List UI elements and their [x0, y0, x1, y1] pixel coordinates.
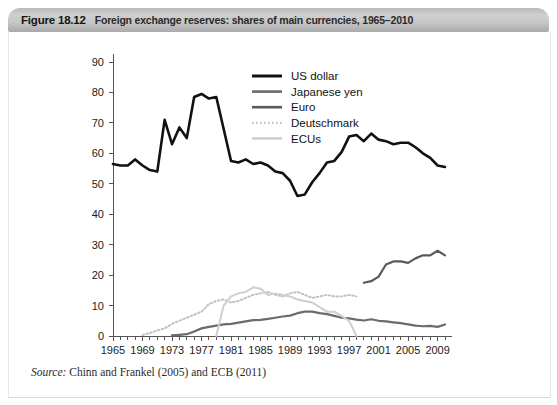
- svg-text:20: 20: [92, 269, 104, 281]
- chart-legend: US dollarJapanese yenEuroDeutschmarkECUs: [252, 70, 363, 144]
- svg-text:1977: 1977: [189, 344, 213, 356]
- svg-text:10: 10: [92, 300, 104, 312]
- svg-text:90: 90: [92, 56, 104, 68]
- svg-text:1965: 1965: [101, 344, 125, 356]
- figure-header-bar: Figure 18.12 Foreign exchange reserves: …: [8, 8, 549, 32]
- svg-text:0: 0: [98, 330, 104, 342]
- svg-text:1973: 1973: [160, 344, 184, 356]
- svg-text:60: 60: [92, 147, 104, 159]
- svg-text:1985: 1985: [248, 344, 272, 356]
- series-line-euro: [364, 251, 445, 283]
- svg-text:70: 70: [92, 117, 104, 129]
- y-axis-tick-labels: 0102030405060708090: [92, 56, 104, 342]
- legend-label-japanese-yen: Japanese yen: [291, 86, 363, 98]
- legend-label-deutschmark: Deutschmark: [291, 117, 359, 129]
- svg-text:1993: 1993: [307, 344, 331, 356]
- svg-text:40: 40: [92, 208, 104, 220]
- line-chart: 0102030405060708090 19651969197319771981…: [9, 32, 550, 357]
- chart-svg: 0102030405060708090 19651969197319771981…: [9, 32, 550, 357]
- svg-text:2005: 2005: [396, 344, 420, 356]
- legend-label-euro: Euro: [291, 101, 315, 113]
- svg-text:1989: 1989: [278, 344, 302, 356]
- svg-text:50: 50: [92, 178, 104, 190]
- legend-label-us-dollar: US dollar: [291, 70, 338, 82]
- svg-text:1981: 1981: [219, 344, 243, 356]
- chart-axes: [109, 54, 452, 341]
- source-note: Source: Chinn and Frankel (2005) and ECB…: [31, 366, 266, 378]
- figure-container: Figure 18.12 Foreign exchange reserves: …: [0, 0, 557, 405]
- source-text: Chinn and Frankel (2005) and ECB (2011): [69, 366, 266, 378]
- svg-text:2009: 2009: [425, 344, 449, 356]
- svg-text:80: 80: [92, 86, 104, 98]
- series-line-us-dollar: [113, 94, 445, 196]
- svg-text:2001: 2001: [366, 344, 390, 356]
- svg-text:30: 30: [92, 239, 104, 251]
- figure-footer-panel: Source: Chinn and Frankel (2005) and ECB…: [8, 357, 551, 398]
- source-label: Source:: [31, 366, 66, 378]
- legend-label-ecus: ECUs: [291, 133, 321, 145]
- figure-body-panel: 0102030405060708090 19651969197319771981…: [8, 32, 551, 357]
- svg-text:1969: 1969: [130, 344, 154, 356]
- svg-text:1997: 1997: [337, 344, 361, 356]
- chart-series-lines: [113, 94, 445, 336]
- figure-number: Figure 18.12: [21, 14, 86, 26]
- figure-caption: Foreign exchange reserves: shares of mai…: [95, 14, 413, 26]
- series-line-japanese-yen: [172, 312, 445, 336]
- x-axis-tick-labels: 1965196919731977198119851989199319972001…: [101, 344, 450, 356]
